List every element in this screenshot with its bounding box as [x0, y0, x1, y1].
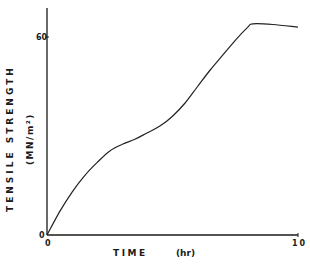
x-tick-label-10: 10 [292, 239, 307, 248]
tensile-strength-chart: 60 0 0 10 TIME (hr) TENSILE STRENGTH (MN… [0, 0, 310, 268]
y-tick-label-60: 60 [36, 33, 48, 42]
y-axis-title: TENSILE STRENGTH [5, 65, 15, 212]
x-axis-unit: (hr) [176, 248, 195, 258]
x-axis-title: TIME [113, 248, 148, 258]
x-tick-label-0: 0 [45, 239, 51, 248]
tensile-strength-curve [47, 24, 298, 235]
y-axis-unit: (MN/m²) [25, 113, 35, 165]
